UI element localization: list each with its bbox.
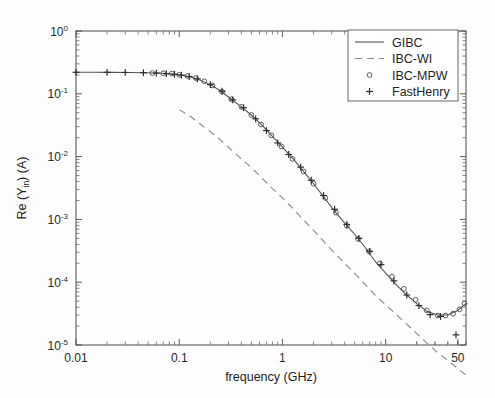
y-axis-title: Re (Yin) (A) [15,157,31,220]
x-axis-title: frequency (GHz) [225,370,317,384]
y-tick-label: 10-2 [48,149,69,164]
legend: GIBCIBC-WIIBC-MPWFastHenry [348,30,458,101]
x-tick-label: 0.1 [171,351,188,365]
legend-label: GIBC [392,36,423,50]
x-tick-label: 1 [279,351,286,365]
data-series [73,69,467,375]
figure-container: 0.010.11105010010-110-210-310-410-5 freq… [0,0,495,398]
legend-label: FastHenry [392,85,450,99]
y-tick-label: 10-1 [48,86,69,101]
y-tick-label: 100 [50,24,68,39]
x-tick-label: 0.01 [64,351,88,365]
y-tick-label: 10-4 [48,275,69,290]
y-tick-label: 10-3 [48,212,69,227]
series-line-ibc-wi [179,110,466,376]
legend-label: IBC-MPW [392,69,448,83]
legend-label: IBC-WI [392,52,432,66]
marker-circle [413,297,418,302]
series-line-gibc [76,72,466,315]
x-tick-label: 50 [451,351,465,365]
loglog-chart: 0.010.11105010010-110-210-310-410-5 freq… [0,0,495,398]
marker-circle [401,286,406,291]
x-tick-label: 10 [379,351,393,365]
